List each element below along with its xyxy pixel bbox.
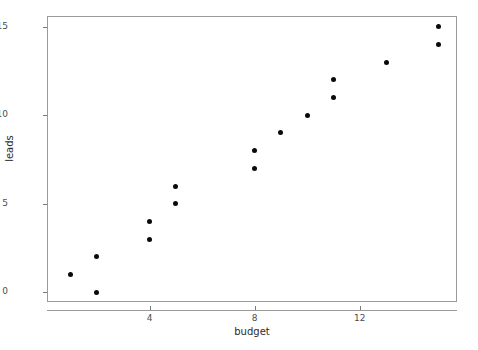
x-tick-mark: [255, 306, 256, 310]
y-tick-label: 15: [0, 22, 8, 31]
scatter-plot: leads 051015 4812 budget: [0, 0, 478, 350]
y-tick-mark: [43, 204, 47, 205]
x-tick-label: 4: [138, 313, 162, 323]
y-tick-mark: [43, 292, 47, 293]
y-axis: leads 051015: [0, 0, 47, 350]
y-tick-mark: [43, 27, 47, 28]
y-tick-label: 10: [0, 110, 8, 119]
x-tick-label: 12: [348, 313, 372, 323]
x-tick-label: 8: [243, 313, 267, 323]
y-axis-title: leads: [4, 119, 15, 179]
y-tick-mark: [43, 115, 47, 116]
x-axis-line: [47, 310, 457, 311]
y-tick-label: 0: [2, 287, 8, 296]
y-tick-label: 5: [2, 199, 8, 208]
x-axis-title: budget: [47, 326, 457, 337]
plot-panel-frame: [47, 16, 457, 302]
x-tick-mark: [150, 306, 151, 310]
x-tick-mark: [360, 306, 361, 310]
